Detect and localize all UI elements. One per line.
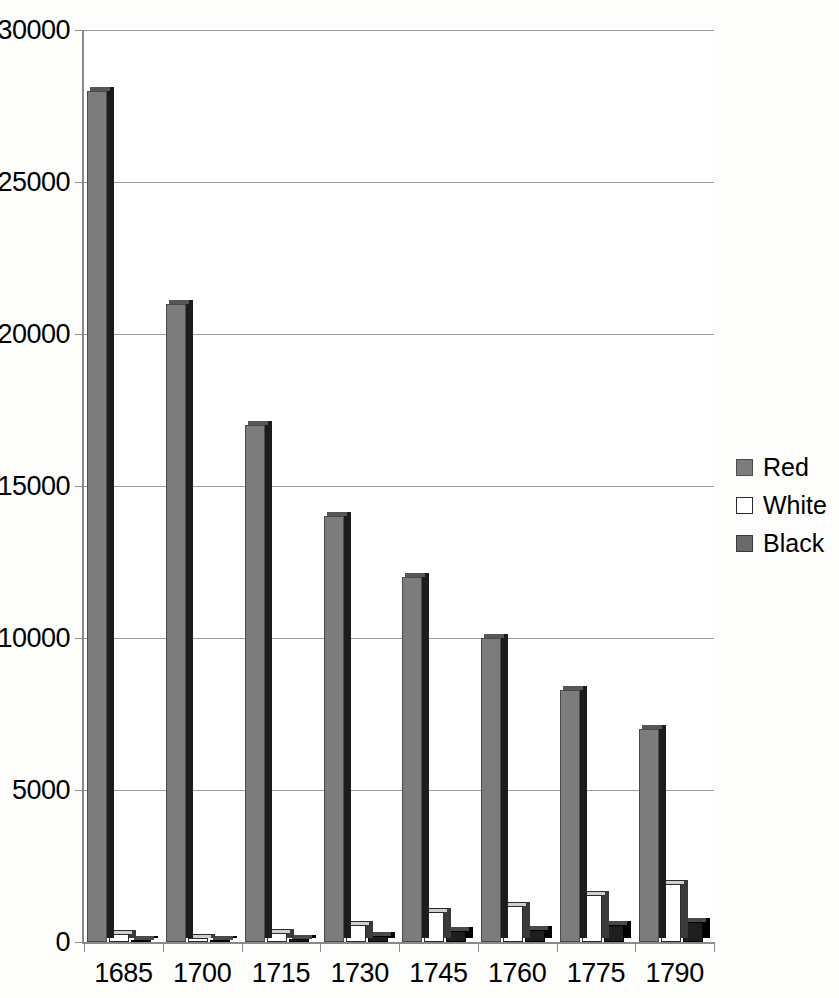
x-axis-tick-label: 1685 (94, 960, 152, 987)
bar-face (166, 304, 186, 942)
y-axis-tick-label: 30000 (0, 17, 70, 44)
y-axis-tick (75, 790, 84, 791)
bar-group (245, 30, 309, 942)
x-axis-tick (635, 942, 636, 952)
x-axis-tick (478, 942, 479, 952)
bar-face (188, 938, 208, 942)
bar-black-1700 (210, 940, 230, 942)
bar-group (324, 30, 388, 942)
bar-3d-side (523, 902, 530, 938)
y-axis-tick (75, 486, 84, 487)
y-axis-tick-label: 15000 (0, 473, 70, 500)
bar-chart: 0500010000150002000025000300001685170017… (0, 0, 839, 998)
x-axis-tick (163, 942, 164, 952)
x-axis-tick-label: 1715 (252, 960, 310, 987)
x-axis-tick-label: 1700 (173, 960, 231, 987)
bar-white-1700 (188, 938, 208, 942)
x-axis-tick-label: 1745 (409, 960, 467, 987)
x-axis-tick (557, 942, 558, 952)
bar-face (639, 729, 659, 942)
legend-label: White (763, 493, 827, 518)
bar-3d-side (344, 512, 351, 938)
x-axis-tick-label: 1760 (488, 960, 546, 987)
bar-3d-side (501, 634, 508, 938)
legend-label: Red (763, 455, 809, 480)
legend-swatch-white (736, 497, 753, 514)
x-axis-tick (714, 942, 715, 952)
bar-face (245, 425, 265, 942)
y-axis-tick-label: 0 (55, 929, 70, 956)
bar-red-1760 (481, 638, 501, 942)
x-axis-tick (84, 942, 85, 952)
bar-red-1775 (560, 690, 580, 942)
chart-legend: RedWhiteBlack (736, 455, 827, 569)
legend-label: Black (763, 531, 824, 556)
x-axis-tick-label: 1790 (646, 960, 704, 987)
x-axis-tick-label: 1730 (331, 960, 389, 987)
bar-face (131, 940, 151, 942)
bar-face (402, 577, 422, 942)
x-axis-tick-label: 1775 (567, 960, 625, 987)
legend-item-black[interactable]: Black (736, 531, 827, 556)
legend-swatch-red (736, 459, 753, 476)
bar-face (324, 516, 344, 942)
y-axis-tick-label: 25000 (0, 169, 70, 196)
y-axis-tick (75, 334, 84, 335)
legend-swatch-black (736, 535, 753, 552)
bar-group (481, 30, 545, 942)
bar-red-1715 (245, 425, 265, 942)
x-axis-tick (242, 942, 243, 952)
bar-3d-side (265, 421, 272, 938)
y-axis-tick-label: 20000 (0, 321, 70, 348)
bar-3d-side (681, 880, 688, 938)
bar-group (87, 30, 151, 942)
bar-black-1715 (289, 939, 309, 942)
bar-group (166, 30, 230, 942)
bar-group (639, 30, 703, 942)
bar-3d-side (659, 725, 666, 938)
bar-3d-side (602, 891, 609, 938)
bar-face (289, 939, 309, 942)
bar-face (481, 638, 501, 942)
legend-item-white[interactable]: White (736, 493, 827, 518)
plot-area: 0500010000150002000025000300001685170017… (82, 30, 714, 944)
bar-red-1685 (87, 91, 107, 942)
bar-group (560, 30, 624, 942)
y-axis-tick-label: 10000 (0, 625, 70, 652)
y-axis-tick (75, 30, 84, 31)
y-axis-tick-label: 5000 (12, 777, 70, 804)
bar-3d-side (186, 300, 193, 938)
bar-group (402, 30, 466, 942)
bar-red-1790 (639, 729, 659, 942)
legend-item-red[interactable]: Red (736, 455, 827, 480)
x-axis-tick (399, 942, 400, 952)
y-axis-tick (75, 942, 84, 943)
y-axis-tick (75, 638, 84, 639)
x-axis-tick (320, 942, 321, 952)
bar-black-1685 (131, 940, 151, 942)
bar-face (87, 91, 107, 942)
bar-red-1700 (166, 304, 186, 942)
y-axis-tick (75, 182, 84, 183)
bar-red-1730 (324, 516, 344, 942)
bar-3d-side (580, 686, 587, 938)
bar-3d-side (107, 87, 114, 938)
bar-3d-side (422, 573, 429, 938)
bar-red-1745 (402, 577, 422, 942)
bar-face (210, 940, 230, 942)
bar-3d-side (444, 908, 451, 938)
bar-face (560, 690, 580, 942)
